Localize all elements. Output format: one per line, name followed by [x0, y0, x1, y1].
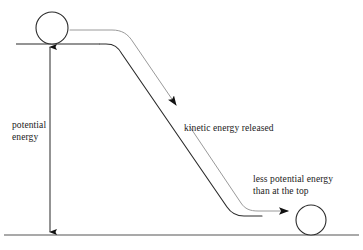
motion-path-lower [190, 127, 288, 211]
kinetic-energy-released-label: kinetic energy released [184, 123, 274, 135]
less-potential-energy-label: less potential energy than at the top [253, 174, 333, 197]
ball-at-top [36, 12, 68, 44]
diagram-canvas [0, 0, 363, 250]
motion-path-upper [70, 30, 176, 105]
energy-ramp-diagram: potential energy kinetic energy released… [0, 0, 363, 250]
potential-energy-label: potential energy [12, 120, 46, 143]
ball-at-bottom [296, 205, 326, 235]
